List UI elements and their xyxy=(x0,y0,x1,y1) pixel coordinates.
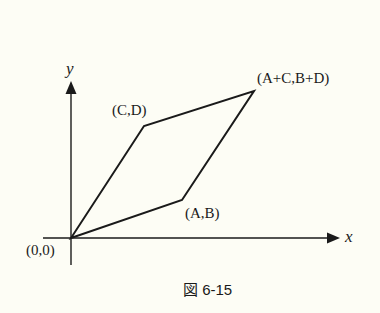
point-label-ab: (A,B) xyxy=(185,206,220,221)
x-axis-label: x xyxy=(345,228,353,245)
point-label-origin: (0,0) xyxy=(26,243,55,258)
point-label-sum: (A+C,B+D) xyxy=(257,71,329,86)
x-axis-arrowhead-icon xyxy=(327,233,340,244)
parallelogram xyxy=(71,91,254,238)
point-label-cd: (C,D) xyxy=(112,103,147,118)
y-axis-label: y xyxy=(66,60,74,77)
parallelogram-diagram xyxy=(0,0,380,313)
y-axis-arrowhead-icon xyxy=(66,81,77,94)
figure-caption: 図 6-15 xyxy=(183,282,232,297)
